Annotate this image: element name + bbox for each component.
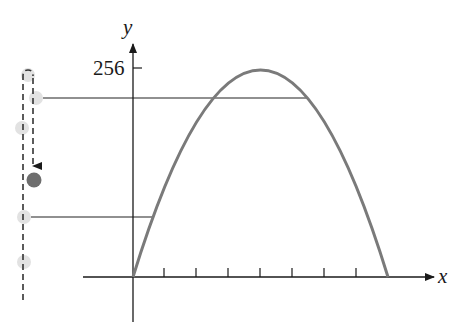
ghost-ball-5 — [17, 255, 31, 269]
x-ticks — [164, 268, 356, 277]
y-axis-label: y — [123, 15, 132, 40]
ghost-ball-4 — [17, 210, 31, 224]
ghost-ball-2 — [29, 91, 43, 105]
x-axis-label: x — [438, 264, 447, 289]
parabola-curve — [133, 70, 388, 277]
ball-current — [27, 173, 42, 188]
y-tick-label-256: 256 — [93, 56, 125, 81]
projectile-diagram — [0, 0, 452, 330]
ghost-balls — [15, 68, 43, 269]
ghost-ball-3 — [15, 121, 29, 135]
